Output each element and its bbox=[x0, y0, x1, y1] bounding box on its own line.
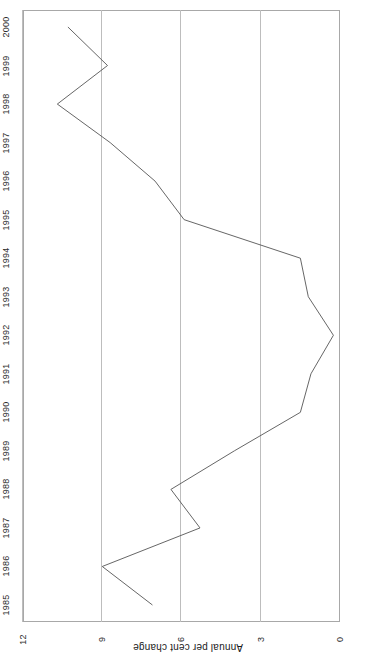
data-series-line bbox=[23, 10, 340, 622]
category-tick-1991: 1991 bbox=[2, 363, 11, 384]
category-tick-1989: 1989 bbox=[2, 440, 11, 461]
category-tick-1997: 1997 bbox=[2, 132, 11, 153]
value-tick-0: 0 bbox=[336, 637, 345, 642]
category-tick-1992: 1992 bbox=[2, 325, 11, 346]
value-tick-6: 6 bbox=[177, 637, 186, 642]
category-tick-1999: 1999 bbox=[2, 55, 11, 76]
category-tick-1985: 1985 bbox=[2, 595, 11, 616]
plot-area bbox=[23, 10, 340, 622]
chart-rotation-wrapper: Annual per cent change 036912 1985198619… bbox=[0, 0, 376, 669]
value-tick-3: 3 bbox=[256, 637, 265, 642]
category-tick-1993: 1993 bbox=[2, 286, 11, 307]
value-tick-9: 9 bbox=[98, 637, 107, 642]
category-tick-2000: 2000 bbox=[2, 17, 11, 38]
value-tick-12: 12 bbox=[19, 634, 28, 644]
category-tick-1994: 1994 bbox=[2, 248, 11, 269]
value-axis-title: Annual per cent change bbox=[133, 642, 243, 652]
category-tick-1995: 1995 bbox=[2, 209, 11, 230]
line-chart-figure: Annual per cent change 036912 1985198619… bbox=[0, 0, 376, 669]
category-tick-1996: 1996 bbox=[2, 171, 11, 192]
category-tick-1986: 1986 bbox=[2, 556, 11, 577]
category-tick-1990: 1990 bbox=[2, 402, 11, 423]
category-tick-1988: 1988 bbox=[2, 479, 11, 500]
category-tick-1998: 1998 bbox=[2, 94, 11, 115]
category-tick-1987: 1987 bbox=[2, 518, 11, 539]
